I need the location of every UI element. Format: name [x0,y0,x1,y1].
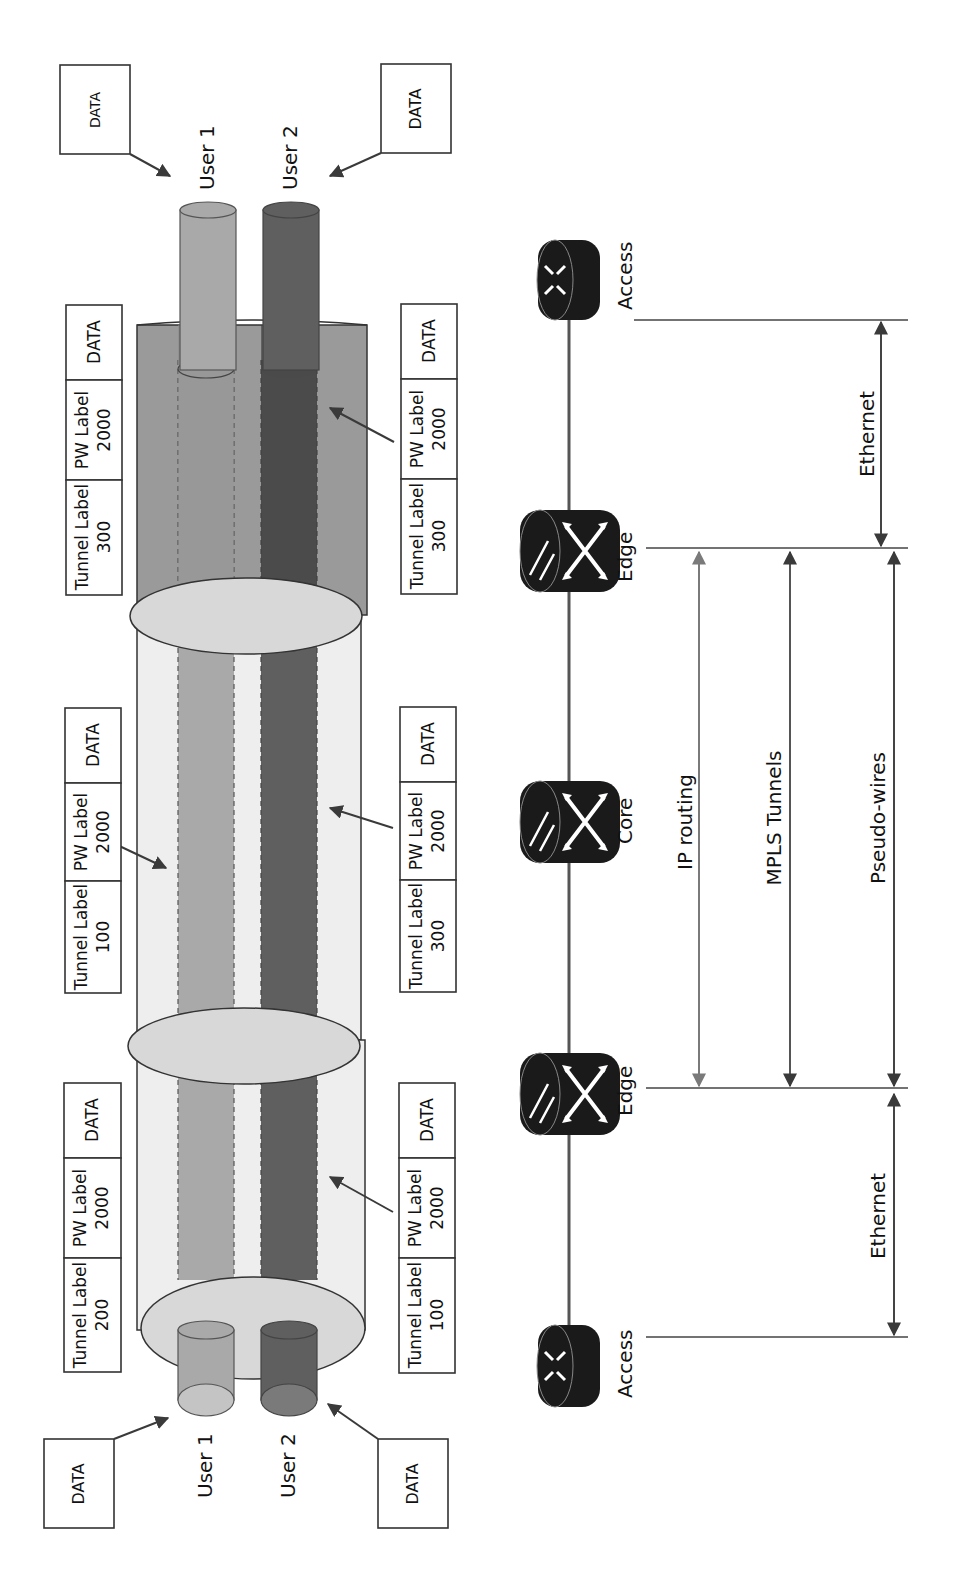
svg-text:200: 200 [92,1299,112,1331]
svg-text:2000: 2000 [92,1186,112,1229]
label-stack-seg3-user2: DATA PW Label 2000 Tunnel Label 300 [401,304,457,594]
user1-label-ingress: User 1 [193,1433,217,1498]
svg-text:DATA: DATA [418,722,438,766]
span-pseudo-wires: Pseudo-wires [866,552,894,1086]
svg-text:IP routing: IP routing [673,774,697,870]
tunnel-joint-lower [128,1008,360,1084]
svg-text:DATA: DATA [82,1098,102,1142]
svg-text:PW Label: PW Label [407,390,427,468]
access-router-icon [537,240,600,320]
user2-label-ingress: User 2 [276,1433,300,1498]
span-ethernet-ingress: Ethernet [866,1094,894,1335]
tunnel-pipe [128,320,367,1379]
svg-text:Tunnel Label: Tunnel Label [71,884,91,992]
span-ip-routing: IP routing [673,552,699,1086]
svg-text:Access: Access [613,242,637,310]
tunnel-front-end [141,1277,365,1379]
user1-label-egress: User 1 [195,125,219,190]
svg-text:Access: Access [613,1330,637,1398]
svg-text:Ethernet: Ethernet [866,1173,890,1259]
svg-text:PW Label: PW Label [71,793,91,871]
svg-text:100: 100 [93,921,113,953]
access-router-icon [537,1325,600,1407]
svg-text:Pseudo-wires: Pseudo-wires [866,752,890,884]
svg-text:PW Label: PW Label [405,1169,425,1247]
svg-text:Tunnel Label: Tunnel Label [406,883,426,991]
svg-text:DATA: DATA [87,92,103,128]
tunnel-joint-upper [130,578,362,654]
tunnel-segment-3 [137,325,367,615]
label-stack-seg3-user1: DATA PW Label 2000 Tunnel Label 300 [66,305,122,595]
core-router-icon [520,781,620,863]
svg-text:DATA: DATA [417,1098,437,1142]
svg-text:Ethernet: Ethernet [855,391,879,477]
svg-text:2000: 2000 [427,1186,447,1229]
svg-text:100: 100 [427,1299,447,1331]
svg-text:DATA: DATA [403,1463,422,1504]
label-stack-seg2-user1: DATA PW Label 2000 Tunnel Label 100 [65,708,121,993]
svg-text:300: 300 [428,920,448,952]
data-box-egress-user2: DATA [381,64,451,153]
svg-text:2000: 2000 [94,408,114,451]
svg-text:PW Label: PW Label [406,792,426,870]
svg-text:DATA: DATA [84,320,104,364]
svg-text:Tunnel Label: Tunnel Label [72,484,92,592]
svg-text:Tunnel Label: Tunnel Label [407,483,427,591]
svg-text:300: 300 [429,520,449,552]
svg-text:DATA: DATA [419,319,439,363]
router-edge-egress: Edge [520,510,637,592]
tunnel-segment-2 [137,615,361,1040]
edge-router-icon [520,1053,620,1135]
svg-text:MPLS Tunnels: MPLS Tunnels [762,751,786,886]
svg-text:Edge: Edge [613,532,637,582]
mpls-pseudowire-diagram: User 1 User 2 User 1 User 2 DATA DATA DA… [0,0,956,1594]
svg-text:2000: 2000 [93,810,113,853]
svg-text:PW Label: PW Label [70,1169,90,1247]
span-mpls-tunnels: MPLS Tunnels [762,552,790,1086]
svg-text:300: 300 [94,521,114,553]
label-stack-seg1-user2: DATA PW Label 2000 Tunnel Label 100 [399,1083,455,1373]
svg-text:Tunnel Label: Tunnel Label [405,1262,425,1370]
user2-label-egress: User 2 [278,125,302,190]
svg-text:Tunnel Label: Tunnel Label [70,1262,90,1370]
router-core: Core [520,781,637,863]
edge-router-icon [520,510,620,592]
svg-text:Edge: Edge [613,1066,637,1116]
label-stack-seg1-user1: DATA PW Label 2000 Tunnel Label 200 [64,1083,121,1372]
router-access-ingress: Access [537,1325,637,1407]
svg-text:PW Label: PW Label [72,391,92,469]
data-box-ingress-user1: DATA [44,1439,114,1528]
svg-text:DATA: DATA [83,723,103,767]
data-box-egress-user1: DATA [60,65,130,154]
svg-text:DATA: DATA [69,1463,88,1504]
label-stack-seg2-user2: DATA PW Label 2000 Tunnel Label 300 [400,707,456,992]
svg-text:2000: 2000 [428,809,448,852]
router-access-egress: Access [537,240,637,320]
svg-text:Core: Core [613,798,637,844]
span-ethernet-egress: Ethernet [855,322,881,546]
router-edge-ingress: Edge [520,1053,637,1135]
data-box-ingress-user2: DATA [378,1439,448,1528]
svg-text:2000: 2000 [429,407,449,450]
svg-text:DATA: DATA [406,88,425,129]
